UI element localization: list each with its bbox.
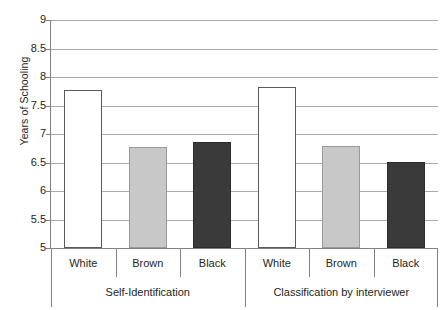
category-separator [180,249,181,277]
category-label: Black [374,249,439,277]
category-separator [437,249,438,277]
group-label: Classification by interviewer [245,277,439,307]
bar-chart: Years of Schooling 98.587.576.565.55 Whi… [0,0,445,310]
gridline-5.5 [51,220,438,221]
group-separator [245,277,246,307]
y-tick-mark-7.5 [46,106,51,107]
category-separator [309,249,310,277]
group-separator [437,277,438,307]
category-label: Black [180,249,245,277]
category-label: Brown [309,249,374,277]
bar [64,90,102,248]
y-tick-label-5: 5 [18,242,46,253]
bar [258,87,296,248]
y-tick-label-6: 6 [18,185,46,196]
y-tick-mark-6.5 [46,163,51,164]
gridline-7 [51,134,438,135]
category-label: White [51,249,116,277]
y-tick-mark-6 [46,191,51,192]
bar [387,162,425,248]
y-axis-tick-labels: 98.587.576.565.55 [14,0,46,310]
y-tick-label-9: 9 [18,14,46,25]
y-tick-mark-8.5 [46,49,51,50]
category-separator [51,249,52,277]
y-tick-label-5.5: 5.5 [18,214,46,225]
y-tick-label-7.5: 7.5 [18,100,46,111]
gridline-9 [51,20,438,21]
category-axis-band: WhiteBrownBlackWhiteBrownBlack [51,249,438,277]
category-label: Brown [116,249,181,277]
category-separator [245,249,246,277]
gridline-6.5 [51,163,438,164]
plot-area [51,20,438,248]
bar [322,146,360,248]
y-tick-mark-5.5 [46,220,51,221]
category-separator [116,249,117,277]
bar [193,142,231,248]
gridline-8 [51,77,438,78]
gridline-8.5 [51,49,438,50]
y-tick-label-7: 7 [18,128,46,139]
category-separator [374,249,375,277]
y-tick-mark-8 [46,77,51,78]
group-label: Self-Identification [51,277,245,307]
y-tick-label-8.5: 8.5 [18,43,46,54]
bar [129,147,167,248]
y-tick-label-8: 8 [18,71,46,82]
gridline-6 [51,191,438,192]
group-separator [51,277,52,307]
category-label: White [245,249,310,277]
y-tick-mark-9 [46,20,51,21]
group-axis-band: Self-IdentificationClassification by int… [51,277,438,307]
y-tick-label-6.5: 6.5 [18,157,46,168]
gridline-7.5 [51,106,438,107]
y-tick-mark-7 [46,134,51,135]
